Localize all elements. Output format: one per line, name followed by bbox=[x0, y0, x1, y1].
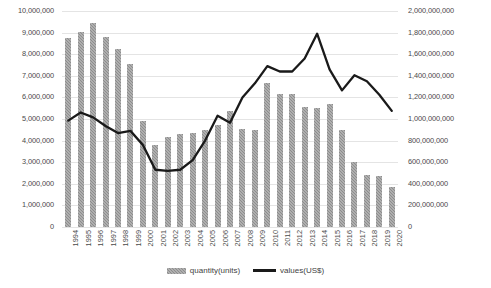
right-axis-tick-label: 0 bbox=[408, 222, 412, 231]
x-axis-tick-2000: 2000 bbox=[146, 230, 155, 246]
x-axis-tick-1997: 1997 bbox=[109, 230, 118, 246]
line-series-values bbox=[62, 11, 398, 227]
x-axis-tick-2010: 2010 bbox=[271, 230, 280, 246]
x-axis-tick-2012: 2012 bbox=[295, 230, 304, 246]
x-axis-tick-1998: 1998 bbox=[121, 230, 130, 246]
legend-line-swatch-icon bbox=[253, 269, 276, 272]
dual-axis-chart: 01,000,0002,000,0003,000,0004,000,0005,0… bbox=[0, 0, 491, 288]
left-axis-tick-label: 3,000,000 bbox=[22, 157, 54, 166]
x-axis-tick-2016: 2016 bbox=[345, 230, 354, 246]
x-axis-tick-2006: 2006 bbox=[221, 230, 230, 246]
x-axis-tick-2009: 2009 bbox=[258, 230, 267, 246]
left-axis-tick-label: 4,000,000 bbox=[22, 136, 54, 145]
x-axis-tick-2011: 2011 bbox=[283, 230, 292, 246]
left-axis: 01,000,0002,000,0003,000,0004,000,0005,0… bbox=[0, 11, 58, 227]
x-axis-tick-2019: 2019 bbox=[383, 230, 392, 246]
right-axis-tick-label: 600,000,000 bbox=[408, 157, 448, 166]
x-axis-tick-2003: 2003 bbox=[183, 230, 192, 246]
left-axis-tick-label: 7,000,000 bbox=[22, 71, 54, 80]
right-axis-tick-label: 1,400,000,000 bbox=[408, 71, 454, 80]
x-axis-tick-1994: 1994 bbox=[71, 230, 80, 246]
x-axis-labels: 1994199519961997199819992000200120022003… bbox=[62, 230, 398, 260]
x-axis-tick-2014: 2014 bbox=[320, 230, 329, 246]
x-axis-tick-2015: 2015 bbox=[333, 230, 342, 246]
plot-area bbox=[62, 11, 398, 227]
right-axis-tick-label: 200,000,000 bbox=[408, 200, 448, 209]
left-axis-tick-label: 9,000,000 bbox=[22, 28, 54, 37]
right-axis-tick-label: 1,800,000,000 bbox=[408, 28, 454, 37]
legend-item-values[interactable]: values(US$) bbox=[253, 266, 324, 275]
x-axis-tick-2002: 2002 bbox=[171, 230, 180, 246]
x-axis-tick-2013: 2013 bbox=[308, 230, 317, 246]
left-axis-tick-label: 10,000,000 bbox=[18, 6, 54, 15]
x-axis-tick-2001: 2001 bbox=[159, 230, 168, 246]
legend-label: values(US$) bbox=[280, 266, 324, 275]
left-axis-tick-label: 0 bbox=[50, 222, 54, 231]
x-axis-tick-2020: 2020 bbox=[395, 230, 404, 246]
right-axis: 0200,000,000400,000,000600,000,000800,00… bbox=[402, 11, 490, 227]
right-axis-tick-label: 1,600,000,000 bbox=[408, 49, 454, 58]
left-axis-tick-label: 5,000,000 bbox=[22, 114, 54, 123]
right-axis-tick-label: 400,000,000 bbox=[408, 179, 448, 188]
legend-label: quantity(units) bbox=[190, 266, 240, 275]
x-axis-tick-2004: 2004 bbox=[196, 230, 205, 246]
chart-legend: quantity(units)values(US$) bbox=[0, 266, 491, 275]
x-axis-tick-2007: 2007 bbox=[233, 230, 242, 246]
legend-item-quantity[interactable]: quantity(units) bbox=[167, 266, 240, 275]
left-axis-tick-label: 1,000,000 bbox=[22, 200, 54, 209]
legend-bar-swatch-icon bbox=[167, 268, 186, 274]
right-axis-tick-label: 1,200,000,000 bbox=[408, 92, 454, 101]
x-axis-tick-2018: 2018 bbox=[370, 230, 379, 246]
gridline bbox=[62, 227, 398, 228]
left-axis-tick-label: 2,000,000 bbox=[22, 179, 54, 188]
right-axis-tick-label: 1,000,000,000 bbox=[408, 114, 454, 123]
left-axis-tick-label: 6,000,000 bbox=[22, 92, 54, 101]
x-axis-tick-1995: 1995 bbox=[84, 230, 93, 246]
x-axis-tick-2017: 2017 bbox=[358, 230, 367, 246]
x-axis-tick-1999: 1999 bbox=[134, 230, 143, 246]
right-axis-tick-label: 2,000,000,000 bbox=[408, 6, 454, 15]
left-axis-tick-label: 8,000,000 bbox=[22, 49, 54, 58]
x-axis-tick-1996: 1996 bbox=[96, 230, 105, 246]
values-line-path bbox=[68, 34, 392, 171]
x-axis-tick-2008: 2008 bbox=[246, 230, 255, 246]
x-axis-tick-2005: 2005 bbox=[208, 230, 217, 246]
right-axis-tick-label: 800,000,000 bbox=[408, 136, 448, 145]
